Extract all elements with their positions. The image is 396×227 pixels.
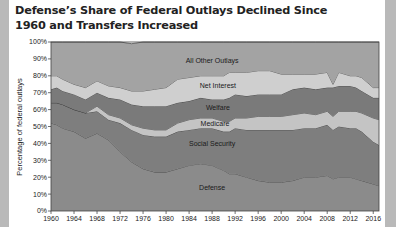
y-tick-label: 80% <box>33 72 47 79</box>
x-tick-label: 1988 <box>204 215 220 222</box>
x-tick-label: 1964 <box>66 215 82 222</box>
y-tick-label: 50% <box>33 123 47 130</box>
x-tick-label: 2016 <box>365 215 381 222</box>
x-tick-label: 2004 <box>296 215 312 222</box>
y-tick-label: 90% <box>33 55 47 62</box>
y-tick-label: 100% <box>29 38 47 45</box>
x-tick-label: 1992 <box>227 215 243 222</box>
y-tick-label: 60% <box>33 106 47 113</box>
y-axis-label: Percentage of federal outlays <box>15 78 24 176</box>
band-label: Social Security <box>189 140 236 148</box>
y-tick-label: 20% <box>33 174 47 181</box>
band-label: Net Interest <box>200 82 236 89</box>
x-tick-label: 1960 <box>43 215 59 222</box>
x-tick-label: 1984 <box>181 215 197 222</box>
y-tick-label: 40% <box>33 140 47 147</box>
x-tick-label: 1972 <box>112 215 128 222</box>
x-tick-label: 1980 <box>158 215 174 222</box>
y-tick-label: 10% <box>33 191 47 198</box>
x-tick-label: 2008 <box>319 215 335 222</box>
y-tick-label: 0% <box>37 207 47 214</box>
y-tick-label: 70% <box>33 89 47 96</box>
y-tick-label: 30% <box>33 157 47 164</box>
x-tick-label: 2012 <box>342 215 358 222</box>
band-label: Welfare <box>206 104 230 111</box>
x-tick-label: 1968 <box>89 215 105 222</box>
x-tick-label: 2000 <box>273 215 289 222</box>
band-label: Medicare <box>201 120 230 127</box>
band-label: Defense <box>199 184 225 191</box>
x-tick-label: 1996 <box>250 215 266 222</box>
stacked-area-chart: 0%10%20%30%40%50%60%70%80%90%100%1960196… <box>0 0 396 227</box>
band-label: All Other Outlays <box>186 57 239 65</box>
x-tick-label: 1976 <box>135 215 151 222</box>
